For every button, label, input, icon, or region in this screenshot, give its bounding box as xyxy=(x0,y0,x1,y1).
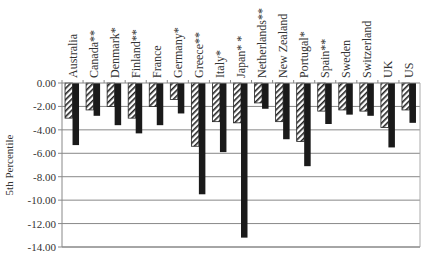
bar-solid xyxy=(73,83,80,145)
bar-hatched xyxy=(86,83,94,110)
y-tick-label: 0.00 xyxy=(37,77,57,89)
x-category-label: Italy* xyxy=(213,50,227,78)
y-tick-label: -14.00 xyxy=(28,241,57,253)
x-category-label: Greece** xyxy=(192,32,206,78)
bar-solid xyxy=(388,83,395,147)
bar-hatched xyxy=(255,83,263,103)
y-tick-labels: 0.00-2.00-4.00-6.00-8.00-10.00-12.00-14.… xyxy=(28,77,57,253)
y-tick-label: -8.00 xyxy=(33,171,56,183)
x-category-label: New Zealand xyxy=(276,14,290,78)
x-category-label: US xyxy=(402,63,416,78)
y-tick-label: -10.00 xyxy=(28,194,57,206)
bar-hatched xyxy=(191,83,199,146)
x-category-label: Canada** xyxy=(87,30,101,78)
bar-solid xyxy=(325,83,332,124)
bar-solid xyxy=(220,83,227,152)
bar-solid xyxy=(262,83,269,109)
bar-hatched xyxy=(107,83,115,106)
bar-hatched xyxy=(318,83,326,111)
bar-solid xyxy=(199,83,206,194)
bar-solid xyxy=(409,83,416,123)
x-category-label: Switzerland xyxy=(360,21,374,78)
bar-solid xyxy=(157,83,164,125)
bar-hatched xyxy=(297,83,305,142)
x-category-label: Netherlands** xyxy=(255,8,269,78)
x-category-label: Portugal* xyxy=(297,31,311,78)
bar-hatched xyxy=(381,83,389,128)
x-category-labels: AustraliaCanada**Denmark*Finland**France… xyxy=(66,8,417,78)
x-category-label: Denmark* xyxy=(108,27,122,78)
bars xyxy=(65,83,416,238)
x-category-label: Germany* xyxy=(171,27,185,78)
bar-hatched xyxy=(276,83,284,122)
bar-solid xyxy=(283,83,290,139)
x-category-label: UK xyxy=(381,60,395,78)
bar-chart: 0.00-2.00-4.00-6.00-8.00-10.00-12.00-14.… xyxy=(0,0,434,270)
bar-solid xyxy=(136,83,143,133)
bar-hatched xyxy=(402,83,410,110)
x-category-label: Finland** xyxy=(129,29,143,78)
bar-hatched xyxy=(360,83,368,111)
bar-solid xyxy=(115,83,122,125)
bar-solid xyxy=(94,83,101,116)
bar-hatched xyxy=(149,83,157,106)
x-category-label: France xyxy=(150,45,164,78)
bar-solid xyxy=(304,83,311,166)
bar-hatched xyxy=(234,83,242,123)
bar-solid xyxy=(346,83,353,115)
y-tick-label: -4.00 xyxy=(33,124,56,136)
bar-hatched xyxy=(170,83,178,99)
bar-solid xyxy=(367,83,374,116)
bar-solid xyxy=(241,83,248,238)
x-category-label: Australia xyxy=(66,33,80,78)
y-tick-label: -12.00 xyxy=(28,218,57,230)
x-category-label: Sweden xyxy=(339,40,353,78)
bar-hatched xyxy=(212,83,220,122)
x-category-label: Japan* * xyxy=(234,36,248,78)
x-category-label: Spain** xyxy=(318,39,332,78)
bar-hatched xyxy=(339,83,347,110)
bar-solid xyxy=(178,83,185,113)
bar-hatched xyxy=(65,83,73,118)
y-tick-label: -6.00 xyxy=(33,147,56,159)
bar-hatched xyxy=(128,83,136,118)
y-tick-label: -2.00 xyxy=(33,100,56,112)
